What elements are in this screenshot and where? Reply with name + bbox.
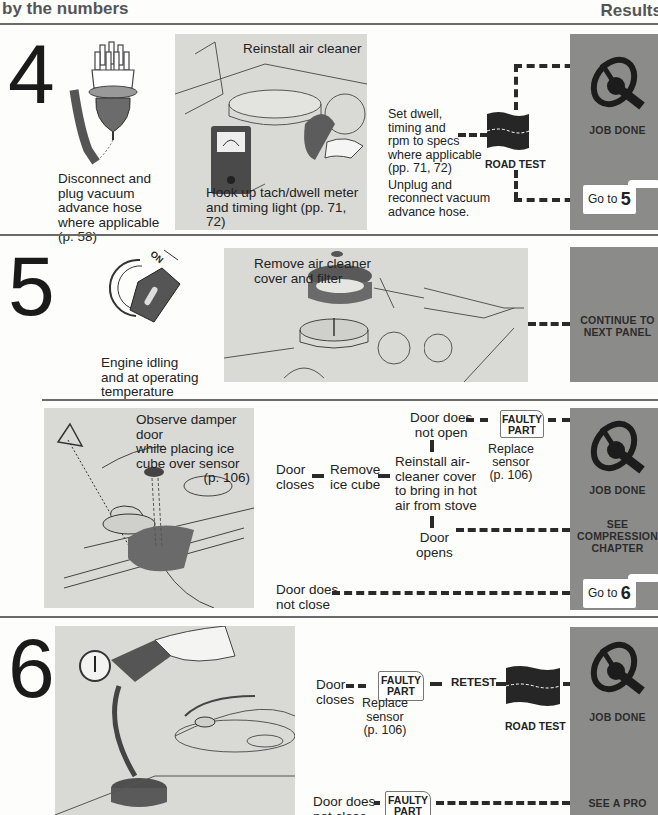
step5b-damper-photo: Observe damper door while placing ice cu… <box>44 408 254 608</box>
step4-action-text: Set dwell, timing and rpm to specs where… <box>388 108 490 219</box>
step-number-4: 4 <box>8 32 53 116</box>
connector <box>548 418 570 422</box>
door-closes-label: Doorcloses <box>276 463 314 492</box>
step-number-5: 5 <box>8 244 53 328</box>
connector <box>466 418 488 422</box>
replace-sensor-label: Replacesensor(p. 106) <box>362 697 408 738</box>
step5b-results-panel: JOB DONE SEE COMPRESSION CHAPTER Go to 6 <box>570 408 658 610</box>
connector <box>528 322 570 326</box>
connector <box>332 591 570 595</box>
section-title: by the numbers <box>2 0 129 17</box>
steering-wheel-icon <box>588 641 646 701</box>
step5-air-cleaner-photo: Remove air cleaner cover and filter <box>224 248 424 382</box>
road-test-icon <box>485 110 531 154</box>
pointing-hand-icon <box>628 180 658 188</box>
step-divider <box>0 234 658 236</box>
connector <box>374 801 380 805</box>
goto-step-5-button[interactable]: Go to 5 <box>582 184 637 215</box>
replace-sensor-label: Replacesensor(p. 106) <box>488 443 534 482</box>
step4-photo-bottom-caption: Hook up tach/dwell meter and timing ligh… <box>206 186 367 230</box>
road-test-label: ROAD TEST <box>505 720 566 732</box>
connector <box>430 682 442 686</box>
substep-divider <box>42 399 658 401</box>
connector <box>514 64 518 110</box>
connector <box>436 801 570 805</box>
see-a-pro-label: SEE A PRO <box>570 797 658 809</box>
door-opens-label: Dooropens <box>416 531 453 560</box>
header-rule <box>0 23 658 25</box>
connector <box>346 684 366 688</box>
goto-step-6-button[interactable]: Go to 6 <box>582 578 637 609</box>
faulty-part-tag: FAULTYPART <box>385 791 431 815</box>
retest-label: RETEST <box>451 676 496 688</box>
step4-results-panel: JOB DONE Go to 5 <box>570 34 658 230</box>
reinstall-cover-label: Reinstall air-cleaner cover to bring in … <box>395 455 477 513</box>
road-test-label: ROAD TEST <box>485 158 546 170</box>
see-compression-chapter-label: SEE COMPRESSION CHAPTER <box>570 518 658 554</box>
step-number-6: 6 <box>8 626 53 710</box>
door-not-open-label: Door doesnot open <box>410 411 472 440</box>
job-done-label: JOB DONE <box>570 124 658 136</box>
door-closes-label: Doorcloses <box>316 678 354 707</box>
steering-wheel-icon <box>588 420 646 480</box>
connector <box>456 528 570 532</box>
step4-engine-photo: Reinstall air cleaner Hook up tach/dwell… <box>175 34 367 230</box>
faulty-part-tag: FAULTYPART <box>500 410 544 438</box>
step6-vacuum-pump-photo <box>55 626 295 815</box>
connector <box>458 133 488 137</box>
step-divider <box>0 616 658 618</box>
door-not-close-label: Door doesnot close <box>313 795 375 815</box>
connector <box>430 440 434 452</box>
step4-photo-top-caption: Reinstall air cleaner <box>243 42 362 57</box>
connector <box>430 516 434 528</box>
door-not-close-label: Door doesnot close <box>276 583 338 612</box>
step5b-photo-caption: Observe damper door while placing ice cu… <box>136 413 254 486</box>
continue-next-panel-label: CONTINUE TO NEXT PANEL <box>570 314 658 338</box>
connector <box>563 682 570 686</box>
ignition-key-icon: ON <box>108 246 183 326</box>
step6-results-panel: JOB DONE SEE A PRO <box>570 627 658 815</box>
step5-results-panel: CONTINUE TO NEXT PANEL <box>570 247 658 382</box>
connector <box>312 474 324 478</box>
job-done-label: JOB DONE <box>570 711 658 723</box>
remove-ice-cube-label: Removeice cube <box>330 463 380 492</box>
steering-wheel-icon <box>588 56 646 116</box>
step5-photo-extension <box>424 248 528 382</box>
results-heading: Results <box>601 1 658 21</box>
road-test-icon <box>504 664 562 710</box>
connector <box>514 170 518 200</box>
job-done-label: JOB DONE <box>570 484 658 496</box>
step5-left-caption: Engine idling and at operating temperatu… <box>101 356 199 400</box>
connector <box>378 474 390 478</box>
distributor-illustration <box>68 40 158 165</box>
section-title-line2: by the numbers <box>2 0 129 17</box>
pointing-hand-icon <box>628 574 658 582</box>
step5-photo-caption: Remove air cleaner cover and filter <box>254 257 371 286</box>
